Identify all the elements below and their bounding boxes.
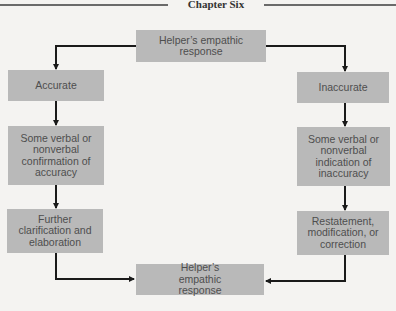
confirmation-box: Some verbal or nonverbal confirmation of… [8,126,104,185]
inaccurate-box: Inaccurate [297,72,389,103]
indication-box: Some verbal or nonverbal indication of i… [297,127,390,186]
accurate-box: Accurate [8,70,104,101]
clarification-box: Further clarification and elaboration [7,209,103,253]
bottom-empathic-response-box: Helper’s empathic response [136,264,264,295]
restatement-box: Restatement, modification, or correction [297,211,389,255]
top-empathic-response-box: Helper’s empathic response [136,30,266,62]
